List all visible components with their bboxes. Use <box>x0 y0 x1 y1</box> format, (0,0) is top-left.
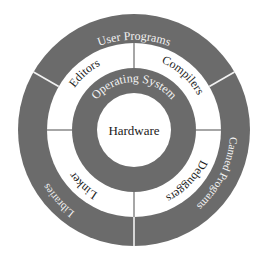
software-layers-diagram: Hardware Operating System User Programs … <box>0 0 262 264</box>
hardware-label: Hardware <box>108 123 159 138</box>
